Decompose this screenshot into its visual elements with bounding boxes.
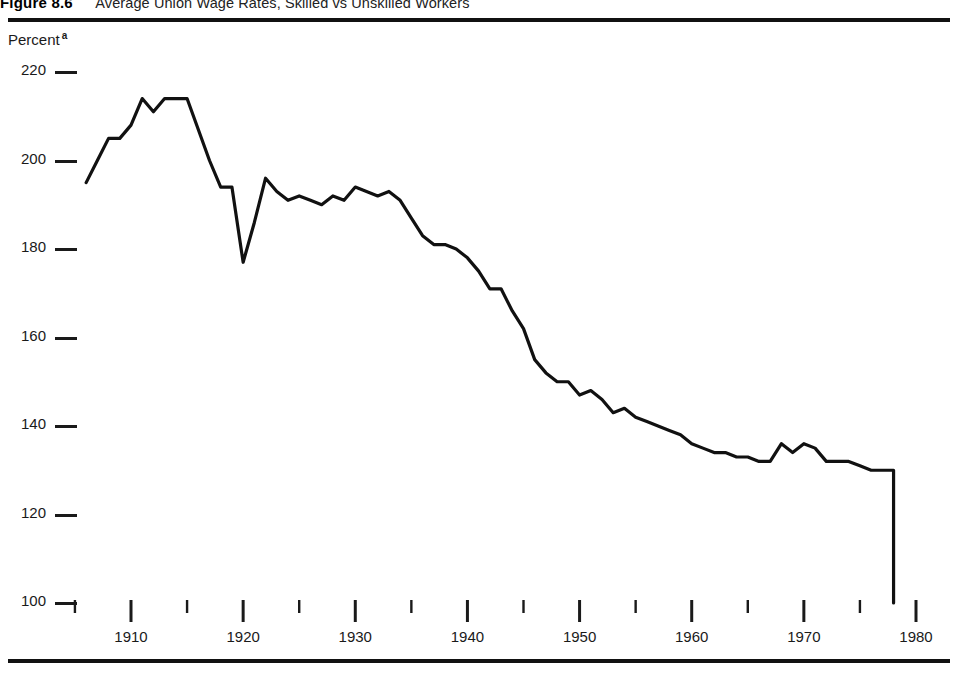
chart-plot-area bbox=[0, 0, 958, 676]
x-tick-label: 1980 bbox=[888, 628, 944, 645]
y-tick-label: 200 bbox=[6, 150, 46, 167]
y-tick-dash bbox=[55, 160, 77, 163]
y-tick-dash bbox=[55, 514, 77, 517]
y-tick-label: 100 bbox=[6, 592, 46, 609]
axis-ticks-layer bbox=[75, 600, 916, 622]
y-tick-dash bbox=[55, 248, 77, 251]
figure-container: Figure 8.6 Average Union Wage Rates, Ski… bbox=[0, 0, 958, 676]
x-tick-label: 1960 bbox=[664, 628, 720, 645]
y-tick-label: 220 bbox=[6, 61, 46, 78]
x-tick-label: 1930 bbox=[327, 628, 383, 645]
y-tick-dash bbox=[55, 71, 77, 74]
y-tick-dash bbox=[55, 602, 77, 605]
y-tick-label: 120 bbox=[6, 504, 46, 521]
x-tick-label: 1940 bbox=[439, 628, 495, 645]
chart-svg bbox=[0, 0, 958, 676]
y-tick-dash bbox=[55, 337, 77, 340]
data-series-line bbox=[86, 99, 893, 603]
y-tick-label: 160 bbox=[6, 327, 46, 344]
y-tick-dash bbox=[55, 425, 77, 428]
y-tick-label: 140 bbox=[6, 415, 46, 432]
x-tick-label: 1920 bbox=[215, 628, 271, 645]
x-tick-label: 1950 bbox=[552, 628, 608, 645]
x-tick-label: 1910 bbox=[103, 628, 159, 645]
y-tick-label: 180 bbox=[6, 238, 46, 255]
x-tick-label: 1970 bbox=[776, 628, 832, 645]
